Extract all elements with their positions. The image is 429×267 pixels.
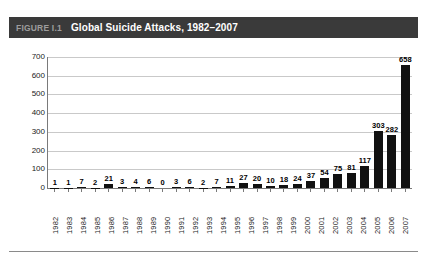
y-axis-tick-label: 600 <box>32 72 45 80</box>
bar-value-label: 18 <box>280 176 288 184</box>
x-axis-tick <box>358 189 371 192</box>
x-axis-tick <box>318 189 331 192</box>
bar-item: 2 <box>88 57 101 188</box>
bar-value-label: 658 <box>399 56 412 64</box>
bar-item: 75 <box>331 57 344 188</box>
x-axis-tick-label-text: 1993 <box>205 194 214 234</box>
x-axis-tick-label-text: 2001 <box>317 194 326 234</box>
x-axis-tick-label-text: 2005 <box>373 194 382 234</box>
bar-value-label: 20 <box>253 175 261 183</box>
bar-item: 0 <box>156 57 169 188</box>
bar-value-label: 54 <box>320 169 328 177</box>
x-axis-tick-label-text: 1985 <box>93 194 102 234</box>
bar-value-label: 0 <box>161 179 165 187</box>
bar-item: 18 <box>277 57 290 188</box>
bar-item: 1 <box>48 57 61 188</box>
x-axis-tick-label-text: 2007 <box>401 194 410 234</box>
x-axis-tick-label-text: 1992 <box>191 194 200 234</box>
bar-rect <box>333 174 342 188</box>
x-axis-tick <box>399 189 412 192</box>
x-axis-tick-label: 2003 <box>342 194 356 234</box>
x-axis-tick-label: 1995 <box>230 194 244 234</box>
bar-value-label: 11 <box>226 177 234 185</box>
x-axis-tick-label-text: 1989 <box>149 194 158 234</box>
bar-rect <box>374 131 383 188</box>
x-axis-tick-label: 1982 <box>48 194 62 234</box>
x-axis-tick-label-text: 1997 <box>261 194 270 234</box>
bar-item: 282 <box>385 57 398 188</box>
figure-container: FIGURE I.1 Global Suicide Attacks, 1982–… <box>0 0 429 267</box>
chart-plot-wrapper: 0100200300400500600700 11722134603627112… <box>0 48 429 248</box>
x-axis-tick <box>385 189 398 192</box>
x-axis-tick <box>61 189 74 192</box>
x-axis-tick-label-text: 1996 <box>247 194 256 234</box>
bar-value-label: 117 <box>359 157 371 165</box>
x-axis-tick <box>102 189 115 192</box>
bar-rect <box>118 187 127 188</box>
x-axis-tick-label-text: 1983 <box>65 194 74 234</box>
x-axis-tick-label: 2002 <box>328 194 342 234</box>
x-axis-tick <box>237 189 250 192</box>
x-axis-tick-label: 1987 <box>118 194 132 234</box>
x-axis-tick <box>372 189 385 192</box>
x-axis-tick-label: 1998 <box>272 194 286 234</box>
x-axis-tick-label: 2001 <box>314 194 328 234</box>
bar-item: 658 <box>399 57 412 188</box>
bar-value-label: 21 <box>105 175 113 183</box>
bar-value-label: 75 <box>334 165 342 173</box>
bar-value-label: 37 <box>307 172 315 180</box>
x-axis-tick <box>345 189 358 192</box>
x-axis-tick-label-text: 1995 <box>233 194 242 234</box>
x-axis-tick-label-text: 1998 <box>275 194 284 234</box>
bar-rect <box>212 187 221 188</box>
x-axis-tick-label: 1986 <box>104 194 118 234</box>
bar-item: 54 <box>318 57 331 188</box>
x-axis-tick <box>331 189 344 192</box>
bar-rect <box>226 186 235 188</box>
x-axis-tick <box>142 189 155 192</box>
bar-value-label: 3 <box>120 178 124 186</box>
y-axis-tick-label: 300 <box>32 128 45 136</box>
bar-rect <box>104 184 113 188</box>
y-axis-tick-label: 700 <box>32 53 45 61</box>
bar-item: 3 <box>115 57 128 188</box>
bar-item: 3 <box>169 57 182 188</box>
x-axis-tick-label-text: 1982 <box>51 194 60 234</box>
x-axis-tick-label-text: 1991 <box>177 194 186 234</box>
bar-item: 7 <box>210 57 223 188</box>
bar-rect <box>347 173 356 188</box>
bar-item: 303 <box>372 57 385 188</box>
x-axis-tick-label: 2004 <box>356 194 370 234</box>
bar-rect <box>145 187 154 188</box>
bar-item: 1 <box>61 57 74 188</box>
y-axis-tick-label: 400 <box>32 109 45 117</box>
bar-item: 6 <box>142 57 155 188</box>
x-axis-tick-label-text: 1988 <box>135 194 144 234</box>
bar-value-label: 282 <box>386 126 399 134</box>
x-axis-tick-label: 1989 <box>146 194 160 234</box>
bar-rect <box>320 178 329 188</box>
bar-value-label: 2 <box>93 179 97 187</box>
x-axis-tick-label-text: 2003 <box>345 194 354 234</box>
bar-item: 6 <box>183 57 196 188</box>
bar-value-label: 4 <box>134 178 138 186</box>
x-axis-tick-label: 1984 <box>76 194 90 234</box>
bar-rect <box>401 65 410 188</box>
bar-item: 4 <box>129 57 142 188</box>
bar-item: 2 <box>196 57 209 188</box>
bar-rect <box>360 166 369 188</box>
x-axis-tick-label-text: 1987 <box>121 194 130 234</box>
bar-rect <box>306 181 315 188</box>
x-axis-tick-label-text: 2006 <box>387 194 396 234</box>
bar-rect <box>253 184 262 188</box>
bar-item: 11 <box>223 57 236 188</box>
x-axis-tick-label: 2000 <box>300 194 314 234</box>
x-axis-tick <box>48 189 61 192</box>
bar-value-label: 24 <box>293 175 301 183</box>
x-axis-tick-label: 2006 <box>384 194 398 234</box>
bottom-divider <box>9 251 418 252</box>
x-axis-tick <box>210 189 223 192</box>
x-axis-tick-labels: 1982198319841985198619871988198919901991… <box>48 194 412 234</box>
x-axis-tick <box>250 189 263 192</box>
x-axis-tick <box>156 189 169 192</box>
